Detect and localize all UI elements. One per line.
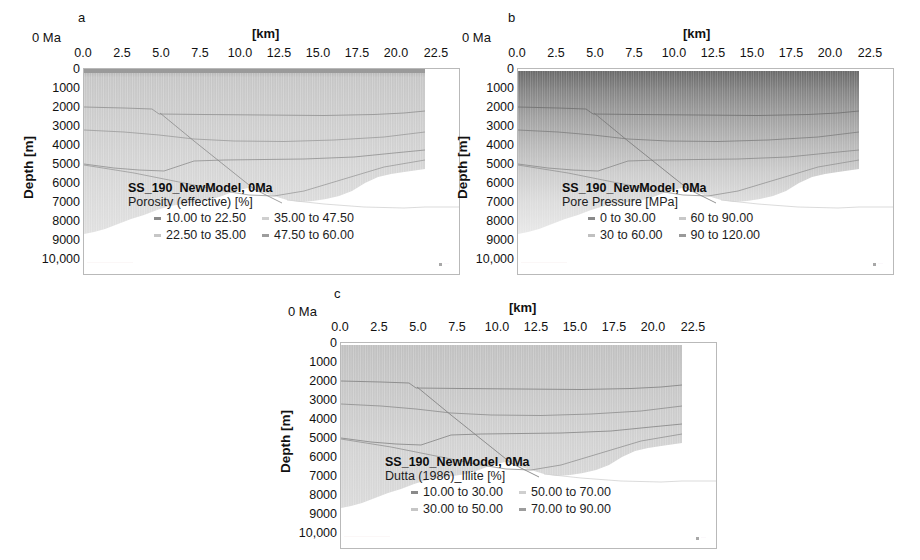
legend-entry: 10.00 to 30.00 bbox=[411, 485, 503, 500]
panel-a-model-name: SS_190_NewModel, 0Ma bbox=[128, 181, 354, 195]
panel-b-letter: b bbox=[508, 10, 515, 25]
panel-c-model-name: SS_190_NewModel, 0Ma bbox=[385, 455, 611, 469]
panel-b-footer-logo-icon bbox=[873, 263, 876, 266]
y-tick: 8000 bbox=[20, 214, 80, 228]
y-tick: 10,000 bbox=[14, 252, 80, 266]
panel-a-footer-logo-icon bbox=[439, 263, 442, 266]
legend-swatch-icon bbox=[411, 508, 418, 511]
y-tick: 0 bbox=[20, 62, 80, 76]
legend-entry: 30.00 to 50.00 bbox=[411, 502, 503, 517]
panel-c-x-axis-label: [km] bbox=[509, 300, 536, 315]
y-tick: 8000 bbox=[454, 214, 514, 228]
panel-a-x-axis-label: [km] bbox=[252, 26, 279, 41]
legend-entry-label: 60 to 90.00 bbox=[691, 211, 754, 226]
y-tick: 8000 bbox=[277, 488, 337, 502]
legend-entry: 30 to 60.00 bbox=[588, 228, 663, 243]
x-tick: 5.0 bbox=[409, 320, 426, 334]
legend-entry-label: 10.00 to 22.50 bbox=[166, 211, 246, 226]
panel-b-cross-section bbox=[518, 69, 893, 274]
x-tick: 0.0 bbox=[508, 46, 525, 60]
legend-swatch-icon bbox=[679, 217, 686, 220]
legend-entry: 50.00 to 70.00 bbox=[519, 485, 611, 500]
x-tick: 15.0 bbox=[563, 320, 587, 334]
panel-c-legend: SS_190_NewModel, 0Ma Dutta (1986)_Illite… bbox=[385, 455, 611, 517]
x-tick: 17.5 bbox=[779, 46, 803, 60]
y-tick: 1000 bbox=[277, 355, 337, 369]
panel-a-legend-entries: 10.00 to 22.50 35.00 to 47.50 22.50 to 3… bbox=[154, 211, 354, 243]
x-tick: 15.0 bbox=[740, 46, 764, 60]
legend-entry: 35.00 to 47.50 bbox=[262, 211, 354, 226]
legend-entry-label: 30.00 to 50.00 bbox=[423, 502, 503, 517]
x-tick: 20.0 bbox=[818, 46, 842, 60]
y-tick: 6000 bbox=[20, 176, 80, 190]
y-tick: 10,000 bbox=[448, 252, 514, 266]
y-tick: 7000 bbox=[277, 469, 337, 483]
x-tick: 0.0 bbox=[331, 320, 348, 334]
y-tick: 0 bbox=[277, 336, 337, 350]
x-tick: 2.5 bbox=[113, 46, 130, 60]
y-tick: 2000 bbox=[20, 100, 80, 114]
x-tick: 12.5 bbox=[267, 46, 291, 60]
x-tick: 10.0 bbox=[485, 320, 509, 334]
panel-b-plot: SS_190_NewModel, 0Ma Pore Pressure [MPa]… bbox=[517, 68, 894, 275]
panel-c-footer-microtext: ‧‧‧‧‧‧‧‧‧‧‧‧‧‧‧‧‧‧‧‧‧‧‧‧‧‧‧‧‧‧‧‧‧‧‧‧‧‧‧‧… bbox=[344, 535, 390, 539]
x-tick: 7.5 bbox=[448, 320, 465, 334]
y-tick: 2000 bbox=[454, 100, 514, 114]
panel-b-legend-entries: 0 to 30.00 60 to 90.00 30 to 60.00 90 to… bbox=[588, 211, 760, 243]
legend-swatch-icon bbox=[679, 234, 686, 237]
legend-entry: 70.00 to 90.00 bbox=[519, 502, 611, 517]
y-tick: 6000 bbox=[277, 450, 337, 464]
legend-entry-label: 35.00 to 47.50 bbox=[274, 211, 354, 226]
panel-b: b 0 Ma [km] 0.0 2.5 5.0 7.5 10.0 12.5 15… bbox=[468, 0, 920, 290]
panel-c-property-label: Dutta (1986)_Illite [%] bbox=[385, 469, 611, 484]
x-tick: 12.5 bbox=[524, 320, 548, 334]
y-tick: 3000 bbox=[20, 119, 80, 133]
x-tick: 7.5 bbox=[191, 46, 208, 60]
panel-a-time-label: 0 Ma bbox=[32, 30, 61, 45]
panel-a-property-label: Porosity (effective) [%] bbox=[128, 195, 354, 210]
x-tick: 22.5 bbox=[424, 46, 448, 60]
legend-entry: 90 to 120.00 bbox=[679, 228, 761, 243]
panel-c-cross-section bbox=[341, 343, 716, 548]
panel-a-plot: SS_190_NewModel, 0Ma Porosity (effective… bbox=[83, 68, 460, 275]
panel-b-property-label: Pore Pressure [MPa] bbox=[562, 195, 760, 210]
panel-c-legend-entries: 10.00 to 30.00 50.00 to 70.00 30.00 to 5… bbox=[411, 485, 611, 517]
y-tick: 5000 bbox=[20, 157, 80, 171]
y-tick: 4000 bbox=[454, 138, 514, 152]
panel-b-legend: SS_190_NewModel, 0Ma Pore Pressure [MPa]… bbox=[562, 181, 760, 243]
legend-entry-label: 47.50 to 60.00 bbox=[274, 228, 354, 243]
legend-swatch-icon bbox=[262, 234, 269, 237]
x-tick: 5.0 bbox=[152, 46, 169, 60]
legend-entry: 60 to 90.00 bbox=[679, 211, 761, 226]
legend-entry-label: 22.50 to 35.00 bbox=[166, 228, 246, 243]
y-tick: 6000 bbox=[454, 176, 514, 190]
y-tick: 3000 bbox=[277, 393, 337, 407]
panel-b-time-label: 0 Ma bbox=[462, 30, 491, 45]
x-tick: 20.0 bbox=[641, 320, 665, 334]
panel-a-cross-section bbox=[84, 69, 459, 274]
y-tick: 1000 bbox=[20, 81, 80, 95]
y-tick: 5000 bbox=[277, 431, 337, 445]
legend-swatch-icon bbox=[154, 234, 161, 237]
panel-b-x-axis-label: [km] bbox=[683, 26, 710, 41]
y-tick: 4000 bbox=[277, 412, 337, 426]
panel-a: a 0 Ma [km] 0.0 2.5 5.0 7.5 10.0 12.5 15… bbox=[0, 0, 470, 290]
x-tick: 10.0 bbox=[662, 46, 686, 60]
panel-b-model-name: SS_190_NewModel, 0Ma bbox=[562, 181, 760, 195]
y-tick: 0 bbox=[454, 62, 514, 76]
y-tick: 9000 bbox=[20, 233, 80, 247]
x-tick: 22.5 bbox=[681, 320, 705, 334]
x-tick: 15.0 bbox=[306, 46, 330, 60]
legend-swatch-icon bbox=[154, 217, 161, 220]
legend-entry: 47.50 to 60.00 bbox=[262, 228, 354, 243]
seabed-line bbox=[84, 69, 425, 73]
x-tick: 10.0 bbox=[228, 46, 252, 60]
panel-c-letter: c bbox=[334, 286, 341, 301]
panel-c-time-label: 0 Ma bbox=[288, 304, 317, 319]
legend-entry: 0 to 30.00 bbox=[588, 211, 663, 226]
legend-swatch-icon bbox=[411, 491, 418, 494]
x-tick: 7.5 bbox=[625, 46, 642, 60]
panel-c-footer-logo-text: ‧‧‧‧‧ bbox=[701, 536, 706, 540]
y-tick: 2000 bbox=[277, 374, 337, 388]
legend-entry-label: 90 to 120.00 bbox=[691, 228, 761, 243]
